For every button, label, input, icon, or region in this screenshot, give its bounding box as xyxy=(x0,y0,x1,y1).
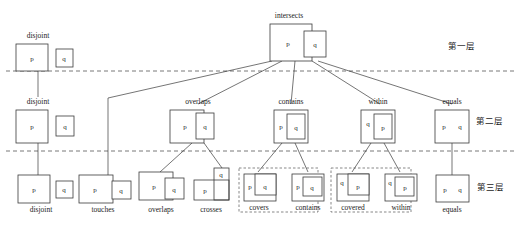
node-label-contains-layer2: contains xyxy=(279,97,304,106)
shape-pq-equals-layer3 xyxy=(436,175,469,202)
layer-label-2: 第二层 xyxy=(476,116,503,126)
glyph-q-equals-layer2: q xyxy=(458,123,462,131)
node-overlaps-layer3[interactable]: p q overlaps xyxy=(139,172,184,214)
glyph-p-within-layer2: p xyxy=(381,124,385,132)
node-label-touches-layer3: touches xyxy=(92,205,115,214)
node-label-disjoint-layer1: disjoint xyxy=(27,31,50,40)
glyph-q-equals-layer3: q xyxy=(458,186,462,194)
glyph-q-disjoint-layer3: q xyxy=(62,186,66,194)
node-equals-layer3[interactable]: p q equals xyxy=(436,175,469,214)
node-within-layer2[interactable]: within q p xyxy=(361,97,395,143)
glyph-q-intersects: q xyxy=(313,41,317,49)
node-label-contains-layer3: contains xyxy=(296,203,321,212)
glyph-q-overlaps-layer2: q xyxy=(203,123,207,131)
node-touches-layer3[interactable]: p q touches xyxy=(79,175,131,214)
node-label-disjoint-layer3: disjoint xyxy=(30,205,53,214)
layer-label-3: 第三层 xyxy=(477,182,504,192)
node-within-layer3[interactable]: q p within xyxy=(385,174,417,212)
glyph-p-intersects: p xyxy=(286,40,290,48)
glyph-p-disjoint-layer3: p xyxy=(32,186,36,194)
node-label-equals-layer3: equals xyxy=(442,205,461,214)
glyph-p-crosses-layer3: p xyxy=(203,187,207,195)
node-overlaps-layer2[interactable]: overlaps p q xyxy=(170,97,214,143)
glyph-q-within-layer3: q xyxy=(388,179,392,187)
node-label-disjoint-layer2: disjoint xyxy=(27,97,50,106)
node-intersects[interactable]: intersects p q xyxy=(270,11,326,61)
glyph-p-touches-layer3: p xyxy=(93,186,97,194)
node-covers-layer3[interactable]: p q covers xyxy=(244,174,276,212)
node-equals-layer2[interactable]: equals p q xyxy=(435,97,469,143)
glyph-p-equals-layer3: p xyxy=(443,186,447,194)
node-contains-layer2[interactable]: contains p q xyxy=(274,97,308,143)
node-crosses-layer3[interactable]: p q crosses xyxy=(194,168,229,214)
glyph-q-contains-layer3: q xyxy=(310,184,314,192)
glyph-p-overlaps-layer3: p xyxy=(152,183,156,191)
node-label-intersects: intersects xyxy=(275,11,303,20)
glyph-p-equals-layer2: p xyxy=(442,123,446,131)
glyph-q-contains-layer2: q xyxy=(294,124,298,132)
glyph-p-covered-layer3: p xyxy=(356,183,360,191)
glyph-q-disjoint-layer2: q xyxy=(63,123,67,131)
node-label-covers-layer3: covers xyxy=(249,203,269,212)
layer-label-1: 第一层 xyxy=(448,41,475,51)
glyph-p-contains-layer2: p xyxy=(279,123,283,131)
node-label-within-layer2: within xyxy=(368,97,387,106)
glyph-q-overlaps-layer3: q xyxy=(172,186,176,194)
node-label-overlaps-layer2: overlaps xyxy=(185,97,210,106)
node-disjoint-layer1[interactable]: disjoint p q xyxy=(16,31,73,71)
glyph-p-contains-layer3: p xyxy=(296,183,300,191)
node-label-equals-layer2: equals xyxy=(442,97,461,106)
node-contains-layer3[interactable]: p q contains xyxy=(292,174,324,212)
node-covered-layer3[interactable]: q p covered xyxy=(337,174,369,212)
glyph-p-covers-layer3: p xyxy=(248,183,252,191)
glyph-q-covers-layer3: q xyxy=(263,183,267,191)
glyph-p-overlaps-layer2: p xyxy=(183,123,187,131)
glyph-q-crosses-layer3: q xyxy=(219,171,223,179)
node-label-covered-layer3: covered xyxy=(341,203,365,212)
glyph-p-disjoint-layer1: p xyxy=(30,55,34,63)
shape-pq-equals-layer2 xyxy=(435,110,469,143)
glyph-p-within-layer3: p xyxy=(403,184,407,192)
glyph-q-disjoint-layer1: q xyxy=(62,55,66,63)
node-label-crosses-layer3: crosses xyxy=(200,205,222,214)
glyph-q-within-layer2: q xyxy=(366,120,370,128)
glyph-q-touches-layer3: q xyxy=(119,187,123,195)
node-disjoint-layer2[interactable]: disjoint p q xyxy=(16,97,74,143)
node-label-overlaps-layer3: overlaps xyxy=(148,205,173,214)
glyph-p-disjoint-layer2: p xyxy=(30,123,34,131)
topology-hierarchy-diagram: intersects p q 第一层 disjoint p q disjoint… xyxy=(0,0,520,235)
node-label-within-layer3: within xyxy=(391,203,410,212)
node-disjoint-layer3[interactable]: p q disjoint xyxy=(18,175,73,214)
glyph-q-covered-layer3: q xyxy=(340,179,344,187)
shape-p-crosses-layer3 xyxy=(194,180,229,200)
